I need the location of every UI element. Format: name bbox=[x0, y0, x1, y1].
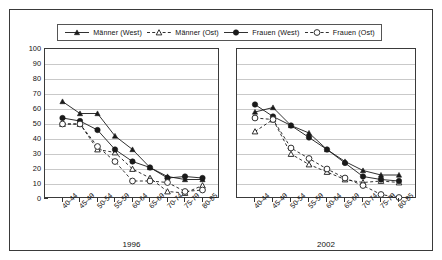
plot-area-1996 bbox=[44, 48, 219, 198]
chart-page: Männer (West)Männer (Ost)Frauen (West)Fr… bbox=[0, 0, 442, 260]
y-axis: 1009080706050403020100 bbox=[20, 48, 44, 198]
legend-label: Männer (West) bbox=[93, 28, 142, 37]
legend-marker-triangle-filled-icon bbox=[64, 27, 90, 38]
y-axis-tick-label: 100 bbox=[29, 44, 41, 53]
plot-1996-wrapper: 40-4445-4950-5455-5960-6465-6970-7475-79… bbox=[44, 48, 219, 198]
legend-label: Männer (Ost) bbox=[175, 28, 219, 37]
legend-marker-circle-filled-icon bbox=[223, 27, 249, 38]
y-axis-tick-label: 40 bbox=[33, 134, 41, 143]
legend-marker-circle-open-icon bbox=[304, 27, 330, 38]
plot-area-2002 bbox=[236, 48, 416, 198]
y-axis-tick-label: 70 bbox=[33, 89, 41, 98]
chart-legend: Männer (West)Männer (Ost)Frauen (West)Fr… bbox=[57, 24, 382, 41]
legend-item-3[interactable]: Frauen (West) bbox=[223, 27, 299, 38]
legend-marker-triangle-open-icon bbox=[146, 27, 172, 38]
plot-2002-wrapper: 40-4445-4950-5455-5960-6465-6970-7475-79… bbox=[236, 48, 416, 198]
y-axis-tick-label: 30 bbox=[33, 149, 41, 158]
chart-title-2002: 2002 bbox=[236, 240, 416, 249]
y-axis-tick-label: 10 bbox=[33, 179, 41, 188]
y-axis-tick-label: 0 bbox=[37, 194, 41, 203]
legend-label: Frauen (West) bbox=[252, 28, 299, 37]
legend-item-1[interactable]: Männer (West) bbox=[64, 27, 142, 38]
series-frauenost bbox=[60, 121, 206, 194]
y-axis-tick-label: 50 bbox=[33, 119, 41, 128]
legend-item-4[interactable]: Frauen (Ost) bbox=[304, 27, 375, 38]
series-layer bbox=[45, 49, 220, 199]
y-axis-tick-label: 80 bbox=[33, 74, 41, 83]
chart-title-1996: 1996 bbox=[44, 240, 219, 249]
legend-item-2[interactable]: Männer (Ost) bbox=[146, 27, 219, 38]
series-frauenost bbox=[252, 115, 402, 200]
legend-label: Frauen (Ost) bbox=[333, 28, 375, 37]
y-axis-tick-label: 20 bbox=[33, 164, 41, 173]
y-axis-tick-label: 60 bbox=[33, 104, 41, 113]
y-axis-tick-label: 90 bbox=[33, 59, 41, 68]
series-layer bbox=[237, 49, 417, 199]
